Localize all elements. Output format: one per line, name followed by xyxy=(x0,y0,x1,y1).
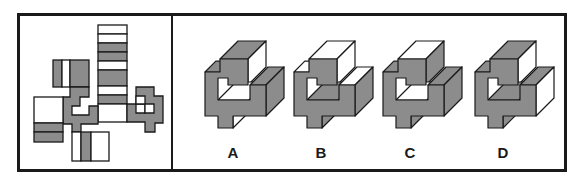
option-shape-b[interactable] xyxy=(294,41,373,128)
option-label-d[interactable]: D xyxy=(493,144,513,161)
net-diagram xyxy=(34,25,163,161)
option-label-a[interactable]: A xyxy=(223,144,243,161)
option-shape-c[interactable] xyxy=(383,41,462,128)
option-shape-a[interactable] xyxy=(205,41,284,128)
option-label-c[interactable]: C xyxy=(400,144,420,161)
option-label-b[interactable]: B xyxy=(311,144,331,161)
option-shape-d[interactable] xyxy=(475,41,554,128)
answer-options xyxy=(205,41,554,128)
